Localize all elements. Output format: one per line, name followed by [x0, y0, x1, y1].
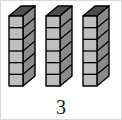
rod-2: [41, 0, 81, 98]
count-label: 3: [0, 96, 122, 118]
rod-1: [4, 0, 44, 98]
rods-group: [0, 0, 122, 98]
base-ten-rods-figure: 3: [0, 0, 122, 120]
rod-3: [78, 0, 118, 98]
